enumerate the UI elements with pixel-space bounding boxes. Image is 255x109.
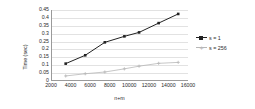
- y-axis-tick: 0.2: [42, 47, 49, 52]
- y-axis-tick: 0.1: [42, 63, 49, 68]
- y-axis-tick: 0.35: [39, 23, 49, 28]
- y-axis-tick: 0.3: [42, 31, 49, 36]
- data-point: [177, 13, 180, 16]
- y-axis-tick-labels: 00.050.10.150.20.250.30.350.40.45: [26, 10, 49, 81]
- data-point: [84, 72, 87, 75]
- legend-label: s = 1: [207, 35, 221, 41]
- y-axis-tick: 0.15: [39, 55, 49, 60]
- legend: s = 1+s = 256: [196, 33, 254, 53]
- x-axis-tick: 16000: [181, 83, 195, 88]
- x-axis-tick: 6000: [84, 83, 96, 88]
- data-point: [104, 41, 107, 44]
- legend-item-1[interactable]: s = 1: [196, 33, 254, 42]
- y-axis-tick: 0.45: [39, 7, 49, 12]
- legend-item-2[interactable]: +s = 256: [196, 43, 254, 52]
- legend-cross-icon: +: [196, 43, 207, 52]
- legend-label: s = 256: [207, 45, 227, 51]
- data-point: [84, 54, 87, 57]
- y-axis-tick: 0.4: [42, 15, 49, 20]
- x-axis-tick: 2000: [45, 83, 57, 88]
- data-point: [64, 62, 67, 65]
- data-point: [64, 74, 67, 77]
- data-point: [103, 70, 106, 73]
- data-point: [177, 61, 180, 64]
- x-axis-tick: 14000: [161, 83, 175, 88]
- data-point: [157, 22, 160, 25]
- series-line-1: [66, 14, 179, 64]
- x-axis-tick: 4000: [65, 83, 77, 88]
- y-axis-title: Time (sec): [14, 27, 32, 45]
- legend-square-icon: [196, 33, 207, 42]
- data-point: [123, 67, 126, 70]
- y-axis-tick: 0.25: [39, 39, 49, 44]
- series-line-2: [66, 62, 179, 76]
- data-point: [123, 35, 126, 38]
- x-axis-title: n+m: [51, 95, 188, 101]
- series-layer: [51, 10, 188, 81]
- data-point: [138, 31, 141, 34]
- x-axis-tick: 10000: [122, 83, 136, 88]
- line-chart: 00.050.10.150.20.250.30.350.40.45 Time (…: [0, 0, 255, 109]
- data-point: [137, 65, 140, 68]
- x-axis-tick: 12000: [142, 83, 156, 88]
- x-axis-tick-labels: 200040006000800010000120001400016000: [51, 83, 188, 92]
- y-axis-tick: 0.05: [39, 71, 49, 76]
- x-axis-tick: 8000: [104, 83, 116, 88]
- data-point: [157, 62, 160, 65]
